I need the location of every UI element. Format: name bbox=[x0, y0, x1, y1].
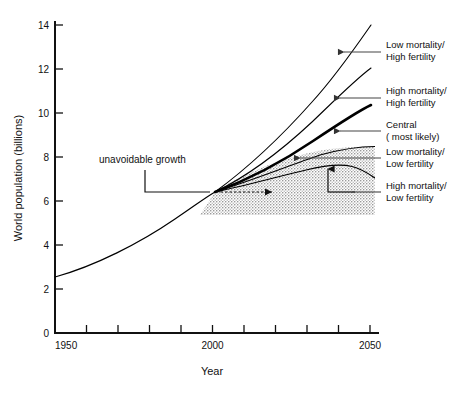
x-axis: 1950 2000 2050 Year bbox=[55, 325, 382, 377]
x-axis-title: Year bbox=[201, 365, 224, 377]
y-tick-label-6: 6 bbox=[43, 196, 49, 207]
label-low-mort-low-fert-line2: Low fertility bbox=[386, 158, 434, 169]
label-high-mort-high-fert-line2: High fertility bbox=[386, 97, 436, 108]
series-historical bbox=[55, 192, 215, 277]
y-tick-label-14: 14 bbox=[38, 20, 50, 31]
x-tick-label-1950: 1950 bbox=[55, 340, 78, 351]
y-tick-label-4: 4 bbox=[43, 240, 49, 251]
chart-canvas: 0 2 4 6 8 10 12 14 World population (bil… bbox=[0, 0, 469, 398]
y-tick-label-10: 10 bbox=[38, 108, 50, 119]
label-low-mort-low-fert-line1: Low mortality/ bbox=[386, 146, 445, 157]
population-projection-chart: 0 2 4 6 8 10 12 14 World population (bil… bbox=[0, 0, 469, 398]
y-tick-label-12: 12 bbox=[38, 64, 50, 75]
label-high-mort-high-fert-line1: High mortality/ bbox=[386, 85, 447, 96]
y-axis: 0 2 4 6 8 10 12 14 World population (bil… bbox=[12, 20, 63, 339]
label-low-mort-high-fert-line1: Low mortality/ bbox=[386, 39, 445, 50]
label-low-mort-high-fert-line2: High fertility bbox=[386, 51, 436, 62]
x-ticks bbox=[55, 325, 370, 333]
y-tick-label-0: 0 bbox=[43, 328, 49, 339]
label-central-line2: ( most likely) bbox=[386, 131, 439, 142]
unavoidable-growth-label: unavoidable growth bbox=[99, 154, 186, 165]
y-axis-title: World population (billions) bbox=[12, 115, 24, 241]
label-central-line1: Central bbox=[386, 119, 417, 130]
y-tick-label-2: 2 bbox=[43, 284, 49, 295]
x-tick-label-2050: 2050 bbox=[359, 340, 382, 351]
label-high-mort-low-fert-line1: High mortality/ bbox=[386, 180, 447, 191]
x-tick-label-2000: 2000 bbox=[201, 340, 224, 351]
y-tick-label-8: 8 bbox=[43, 152, 49, 163]
callout-labels: Low mortality/ High fertility High morta… bbox=[386, 39, 447, 203]
label-high-mort-low-fert-line2: Low fertility bbox=[386, 192, 434, 203]
